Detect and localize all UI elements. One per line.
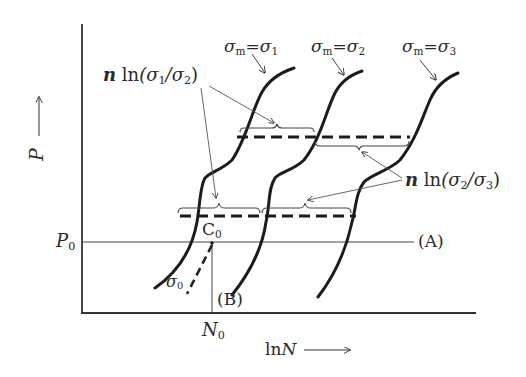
p0-subscript: 0 [68,240,75,253]
n0-symbol: N [202,319,218,340]
curve-label-sigma2: σm=σ2 [311,38,365,56]
sub-a: 1 [159,74,166,87]
y-axis-label: P [27,148,46,161]
ln-text: ln [424,169,441,190]
curve-sigma2 [232,71,362,295]
n-symbol: n [103,64,116,85]
equals: = [424,36,438,56]
curve-label-sigma3: σm=σ3 [402,38,456,56]
leader-sigma3 [420,60,436,80]
n-symbol: n [405,169,418,190]
close-paren: ) [191,64,198,85]
annotation-shift23: n ln(σ2/σ3) [405,171,500,191]
sub-a: 2 [461,179,468,192]
x-axis-label: lnN [265,341,296,358]
n0-label: N0 [202,321,225,341]
m-subscript: m [323,45,333,57]
leader-shift12-upper [209,86,274,123]
ln-text: ln [122,64,139,85]
line-b-label: (B) [217,291,243,308]
index-subscript: 3 [449,45,456,57]
upper-brace-23 [315,141,409,150]
sub-b: 3 [486,179,493,192]
open-sigma: (σ [441,169,460,190]
index-subscript: 1 [271,45,278,57]
slash-sigma: /σ [468,169,486,190]
lower-brace-12 [178,203,260,213]
sigma-symbol: σ [347,36,359,56]
sigma-symbol: σ [402,36,414,56]
curve-sigma1 [155,68,294,288]
leader-sigma2 [332,58,344,75]
annotation-shift12: n ln(σ1/σ2) [103,66,198,86]
leader-sigma1 [252,54,265,73]
p0-label: P0 [56,232,75,252]
sigma-symbol: σ [438,36,450,56]
open-sigma: (σ [139,64,158,85]
c0-point [210,241,214,245]
upper-brace-12 [240,124,314,132]
sigma0-label: σ0 [166,274,183,291]
n0-subscript: 0 [218,329,225,342]
c0-label: C0 [202,221,222,239]
line-a-label: (A) [418,233,444,250]
sigma0-subscript: 0 [177,280,183,291]
m-subscript: m [414,45,424,57]
sigma-symbol: σ [224,36,236,56]
equals: = [246,36,260,56]
sigma-symbol: σ [260,36,272,56]
c0-subscript: 0 [215,228,222,240]
sub-b: 2 [184,74,191,87]
leader-shift23-lower [308,180,402,200]
c0-symbol: C [202,219,215,239]
x-axis-label-ln: ln [265,339,281,359]
m-subscript: m [236,45,246,57]
slash-sigma: /σ [166,64,184,85]
close-paren: ) [493,169,500,190]
p0-symbol: P [56,230,68,251]
sigma0-symbol: σ [166,272,177,291]
lower-brace-23 [262,203,351,213]
sigma-symbol: σ [311,36,323,56]
sigma0-curve [187,245,212,294]
index-subscript: 2 [358,45,365,57]
x-axis-label-var: N [281,339,296,359]
curve-label-sigma1: σm=σ1 [224,38,278,56]
equals: = [333,36,347,56]
